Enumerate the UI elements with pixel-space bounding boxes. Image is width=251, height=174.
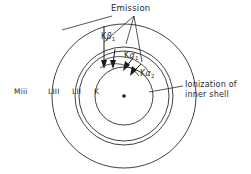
shell-label-l2: LII	[72, 88, 81, 96]
atomic-shell-diagram: Miii LIII LII K Emission Kβ1 Kα1 Kα2 Ion…	[0, 0, 251, 174]
shell-label-l3: LIII	[48, 88, 60, 96]
kbeta1-greek: β	[106, 32, 111, 41]
shell-label-k: K	[94, 88, 99, 96]
transition-label-kalpha1: Kα1	[124, 52, 139, 61]
ionization-leader-line	[149, 86, 183, 92]
shell-label-m3: Miii	[14, 88, 28, 96]
kalpha2-subscript: 2	[151, 73, 155, 79]
emission-label: Emission	[111, 4, 150, 14]
ionization-line-1: Ionization of	[185, 80, 237, 90]
transition-label-kalpha2: Kα2	[140, 70, 155, 79]
kalpha1-subscript: 1	[135, 55, 139, 61]
transition-label-kbeta1: Kβ1	[101, 33, 116, 42]
ionization-line-2: inner shell	[185, 90, 237, 100]
kbeta1-subscript: 1	[112, 36, 116, 42]
nucleus-dot	[122, 94, 126, 98]
ionization-annotation: Ionization of inner shell	[185, 80, 237, 100]
